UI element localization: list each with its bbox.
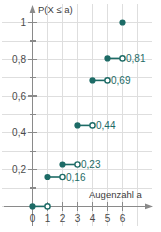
open-point-3-023 bbox=[75, 162, 80, 167]
y-tick-label-0.2: 0,2 bbox=[12, 164, 26, 175]
x-tick-label-0: 0 bbox=[30, 213, 36, 224]
x-tick-label-2: 2 bbox=[60, 213, 66, 224]
data-label-069: 0,69 bbox=[111, 75, 131, 86]
data-label-081: 0,81 bbox=[126, 53, 146, 64]
open-point-1-0 bbox=[45, 204, 50, 209]
x-tick-label-1: 1 bbox=[45, 213, 51, 224]
y-tick-label-0.8: 0,8 bbox=[12, 54, 26, 65]
open-point-2-016 bbox=[60, 174, 65, 179]
x-axis bbox=[4, 204, 153, 210]
y-axis-title: P(X ≤ a) bbox=[38, 4, 73, 15]
filled-point-4-069 bbox=[89, 77, 95, 83]
y-tick-label-1: 1 bbox=[20, 17, 26, 28]
x-tick-label-5: 5 bbox=[105, 213, 111, 224]
x-axis-title: Augenzahl a bbox=[89, 189, 143, 200]
x-tick-label-3: 3 bbox=[75, 213, 81, 224]
x-tick-label-4: 4 bbox=[90, 213, 96, 224]
chart-canvas: 1 0,8 0,6 0,4 0,2 0 1 2 3 4 5 6 P(X ≤ a)… bbox=[0, 0, 161, 232]
filled-point-1-016 bbox=[44, 174, 50, 180]
filled-point-2-023 bbox=[59, 161, 65, 167]
cumulative-distribution-chart: 1 0,8 0,6 0,4 0,2 0 1 2 3 4 5 6 P(X ≤ a)… bbox=[0, 0, 161, 232]
data-label-023: 0,23 bbox=[81, 159, 101, 170]
y-tick-label-0.6: 0,6 bbox=[12, 91, 26, 102]
open-point-6-081 bbox=[120, 56, 125, 61]
open-point-5-069 bbox=[105, 78, 110, 83]
y-axis bbox=[30, 5, 36, 226]
data-label-044: 0,44 bbox=[96, 120, 116, 131]
x-tick-label-6: 6 bbox=[120, 213, 126, 224]
filled-point-3-044 bbox=[74, 122, 80, 128]
data-label-016: 0,16 bbox=[66, 172, 86, 183]
y-tick-label-0.4: 0,4 bbox=[12, 127, 26, 138]
filled-point-0-0 bbox=[29, 203, 35, 209]
open-point-4-044 bbox=[90, 123, 95, 128]
filled-point-5-081 bbox=[104, 55, 110, 61]
filled-point-6-1 bbox=[119, 19, 125, 25]
